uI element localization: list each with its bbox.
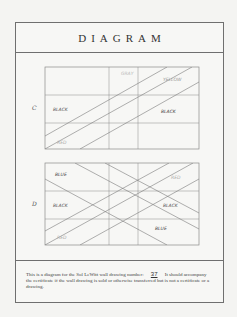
- color-annotation: GRAY: [121, 71, 135, 76]
- diagonal-line: [80, 179, 199, 245]
- page-title: DIAGRAM: [73, 32, 166, 44]
- caption-text-mid: It should: [165, 272, 183, 277]
- color-annotation: YELLOW: [163, 77, 182, 82]
- diagonal-line: [80, 82, 199, 149]
- drawing-number: 37: [145, 271, 164, 277]
- caption-box: This is a diagram for the Sol LeWitt wal…: [16, 260, 223, 304]
- color-annotation: BLACK: [163, 203, 179, 208]
- color-annotation: BLACK: [161, 109, 177, 114]
- color-annotation: BLUE: [155, 226, 167, 231]
- color-annotation: BLACK: [53, 107, 69, 112]
- diagram-c: BLACKBLACKYELLOWREDGRAY: [45, 67, 199, 149]
- color-annotation: RED: [57, 140, 67, 145]
- diagonal-line: [105, 163, 199, 213]
- title-bar: DIAGRAM: [16, 23, 223, 53]
- diagram-label: C: [32, 104, 37, 111]
- diagram-sheet: DIAGRAM BLACKBLACKYELLOWREDGRAYCBLUEBLAC…: [15, 22, 224, 303]
- color-annotation: BLUE: [55, 172, 67, 177]
- wall-drawing-diagrams: BLACKBLACKYELLOWREDGRAYCBLUEBLACKBLACKBL…: [16, 53, 225, 260]
- color-annotation: BLACK: [53, 203, 69, 208]
- diagram-label: D: [31, 200, 37, 207]
- diagonal-line: [45, 67, 167, 136]
- caption-text-start: This is a diagram for the Sol LeWitt wal…: [26, 272, 144, 277]
- color-annotation: RED: [171, 175, 181, 180]
- diagram-d: BLUEBLACKBLACKBLUEREDRED: [45, 163, 199, 245]
- diagram-area: BLACKBLACKYELLOWREDGRAYCBLUEBLACKBLACKBL…: [16, 53, 223, 260]
- color-annotation: RED: [57, 235, 67, 240]
